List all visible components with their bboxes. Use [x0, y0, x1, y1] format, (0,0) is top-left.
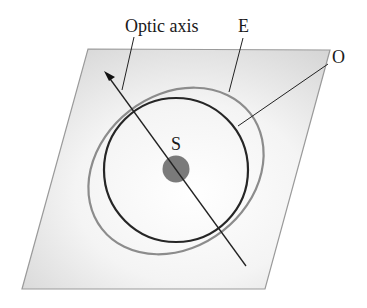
e-label: E	[238, 16, 249, 36]
optic-axis-label: Optic axis	[125, 16, 199, 36]
s-label: S	[171, 134, 181, 154]
o-label: O	[332, 47, 345, 67]
birefringence-diagram: Optic axis E O S	[0, 0, 367, 308]
